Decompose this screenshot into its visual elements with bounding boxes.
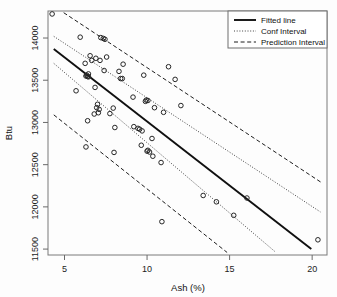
data-point	[131, 95, 136, 100]
data-point	[83, 61, 88, 66]
data-point	[112, 150, 117, 155]
legend-label: Fitted line	[261, 16, 296, 25]
y-tick-label: 12000	[30, 194, 40, 219]
data-point	[104, 55, 109, 60]
data-point	[50, 12, 55, 17]
data-point	[152, 105, 157, 110]
data-point	[78, 35, 83, 40]
y-tick-label: 14000	[30, 26, 40, 51]
legend-label: Prediction Interval	[261, 38, 325, 47]
legend-label: Conf Interval	[261, 27, 307, 36]
data-point	[173, 77, 178, 82]
data-point	[159, 160, 164, 165]
data-point	[231, 213, 236, 218]
data-point	[113, 125, 118, 130]
y-tick-label: 13000	[30, 110, 40, 135]
data-point	[88, 53, 93, 58]
y-axis-ticks: 115001200012500130001350014000	[30, 26, 48, 262]
data-point	[151, 154, 156, 159]
data-point	[85, 118, 90, 123]
data-point	[179, 103, 184, 108]
x-axis-ticks: 5101520	[62, 255, 317, 274]
data-point	[161, 110, 166, 115]
y-axis-label: Btu	[3, 126, 14, 140]
data-point	[150, 136, 155, 141]
data-point	[111, 106, 116, 111]
x-tick-label: 10	[142, 264, 152, 274]
conf-interval-lower	[54, 63, 275, 251]
data-point	[141, 73, 146, 78]
data-point	[160, 219, 165, 224]
interval-bands	[54, 13, 321, 253]
data-point	[201, 193, 206, 198]
y-tick-label: 13500	[30, 68, 40, 93]
data-point	[74, 88, 79, 93]
fitted-regression-line	[54, 49, 312, 249]
data-point	[121, 62, 126, 67]
x-tick-label: 20	[307, 264, 317, 274]
data-point	[108, 111, 113, 116]
fitted-line	[54, 49, 312, 249]
legend: Fitted lineConf IntervalPrediction Inter…	[228, 11, 327, 48]
data-point	[316, 238, 321, 243]
x-tick-label: 5	[62, 264, 67, 274]
x-axis-label: Ash (%)	[171, 282, 205, 293]
data-point	[139, 143, 144, 148]
x-tick-label: 15	[225, 264, 235, 274]
prediction-interval-lower	[54, 115, 227, 253]
y-tick-label: 12500	[30, 152, 40, 177]
data-point	[166, 64, 171, 69]
scatter-plot: 5101520 115001200012500130001350014000 F…	[0, 0, 337, 297]
data-point	[93, 85, 98, 90]
data-point	[98, 58, 103, 63]
chart-container: 5101520 115001200012500130001350014000 F…	[0, 0, 337, 297]
data-point	[117, 69, 122, 74]
y-tick-label: 11500	[30, 237, 40, 261]
conf-interval-upper	[54, 36, 321, 212]
data-point	[84, 145, 89, 150]
